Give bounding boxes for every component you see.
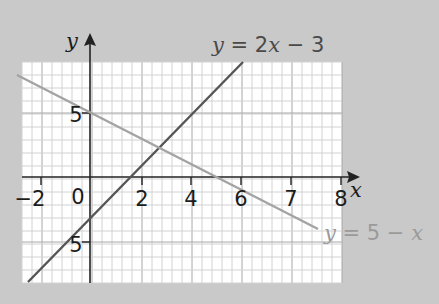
y-tick-label-5: 5 xyxy=(69,103,82,127)
y-tick-label-minus-5: 5 xyxy=(69,233,82,257)
x-tick-label: 7 xyxy=(284,187,297,211)
x-axis-label: x xyxy=(350,178,362,202)
x-tick-label: 0 xyxy=(71,185,84,209)
equation-label-line1: y = 2x − 3 xyxy=(211,33,324,57)
equation-label-line2: y = 5 − x xyxy=(323,221,423,245)
x-tick-label: 2 xyxy=(135,187,148,211)
x-tick-label: 8 xyxy=(334,187,347,211)
x-tick-label: −2 xyxy=(15,187,46,211)
x-tick-label: 6 xyxy=(234,187,247,211)
y-axis-label: y xyxy=(65,29,79,53)
x-tick-label: 4 xyxy=(184,187,197,211)
coordinate-graph: −2 0 2 4 6 7 8 5 5 y x y = 2x − 3 y = 5 … xyxy=(0,0,439,304)
